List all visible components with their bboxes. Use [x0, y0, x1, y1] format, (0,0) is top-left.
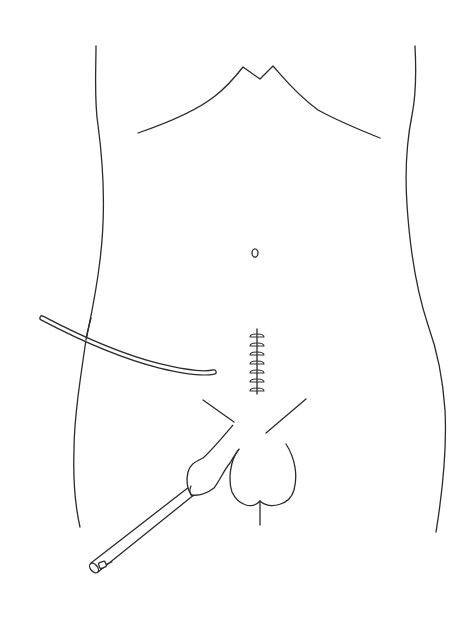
body-outline-left-overlay — [86, 318, 91, 340]
instrument — [88, 425, 239, 574]
medical-diagram — [0, 0, 475, 632]
groin-line-left — [203, 400, 234, 422]
groin-line-right — [266, 399, 306, 433]
incision-sutures — [250, 329, 264, 394]
drain-tube — [42, 318, 214, 373]
hand-grip — [187, 425, 239, 495]
body-outline-right — [406, 46, 445, 532]
scrotum — [230, 444, 296, 506]
body-outline-left — [74, 46, 103, 527]
umbilicus — [252, 249, 258, 257]
costal-margin — [138, 66, 380, 138]
